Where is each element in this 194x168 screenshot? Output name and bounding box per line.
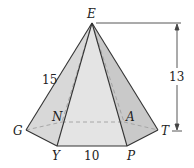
- label-A: A: [125, 110, 135, 124]
- label-G: G: [13, 124, 23, 138]
- pyramid-diagram: E G Y P T A N 15 10 13: [0, 0, 194, 168]
- label-base-edge: 10: [84, 149, 99, 163]
- label-P: P: [126, 149, 136, 163]
- label-height: 13: [169, 70, 184, 84]
- label-Y: Y: [52, 149, 61, 163]
- label-T: T: [161, 124, 170, 138]
- label-N: N: [51, 110, 63, 124]
- label-E: E: [86, 7, 96, 21]
- label-lateral-edge: 15: [42, 73, 57, 87]
